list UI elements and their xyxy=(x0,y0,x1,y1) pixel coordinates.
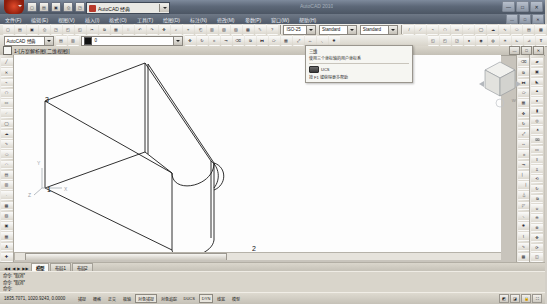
mirror-icon[interactable]: ⧓ xyxy=(257,35,268,46)
plot-preview-icon[interactable]: ◳ xyxy=(51,24,62,35)
gradient-icon[interactable]: ▨ xyxy=(1,211,13,221)
print-icon[interactable]: ⎙ xyxy=(63,2,73,12)
cylinder-icon[interactable]: ▮ xyxy=(531,106,543,115)
menu-item-2[interactable]: 视图(V) xyxy=(53,16,80,23)
workspace-combo[interactable]: AutoCAD 经典 xyxy=(4,36,54,46)
stretch-icon[interactable]: ↔ xyxy=(518,139,530,149)
layer-combo[interactable]: 0 xyxy=(81,36,183,46)
qnew-icon[interactable]: ▢ xyxy=(3,24,14,35)
join-icon[interactable]: ⏃ xyxy=(518,190,530,200)
command-line[interactable]: 命令: *取消* 命令: *取消* 命令: xyxy=(0,271,545,292)
menu-item-9[interactable]: 参数(P) xyxy=(240,16,267,23)
subtract-icon[interactable]: ⊖ xyxy=(531,213,543,222)
revolve-icon[interactable]: ↻ xyxy=(531,184,543,193)
viewcube[interactable] xyxy=(477,58,523,110)
line-icon[interactable]: / xyxy=(403,24,414,35)
section-plane-icon[interactable]: ◫ xyxy=(531,252,543,261)
menu-item-5[interactable]: 工具(T) xyxy=(132,16,158,23)
make-block-icon[interactable]: ▥ xyxy=(1,180,13,190)
chevron-down-icon[interactable] xyxy=(388,26,397,34)
cut-icon[interactable]: ✂ xyxy=(87,24,98,35)
doc-minimize-button[interactable]: — xyxy=(506,14,518,24)
undo-icon[interactable]: ↶ xyxy=(135,24,146,35)
sheetset-icon[interactable]: ▩ xyxy=(243,24,254,35)
textstyle-combo[interactable]: Standard xyxy=(319,25,357,35)
box-icon[interactable]: ▣ xyxy=(531,67,543,76)
planar-surface-icon[interactable]: ▭ xyxy=(531,145,543,154)
wedge-icon[interactable]: ◣ xyxy=(531,77,543,86)
ellipse-arc-icon[interactable]: ◠ xyxy=(1,160,13,170)
block-icon[interactable]: ▤ xyxy=(523,24,534,35)
rectangle-icon[interactable]: ▭ xyxy=(451,24,462,35)
spline-icon[interactable]: ∿ xyxy=(1,139,13,149)
move-icon[interactable]: ✥ xyxy=(185,35,196,46)
toolpalette-icon[interactable]: ▨ xyxy=(231,24,242,35)
save-icon[interactable]: ▣ xyxy=(27,24,38,35)
doc-close-button[interactable]: ✕ xyxy=(532,14,544,24)
status-toggle-1[interactable]: 栅格 xyxy=(90,294,104,303)
edit-spline-icon[interactable]: ∿ xyxy=(518,242,530,252)
pan-icon[interactable]: ✥ xyxy=(159,24,170,35)
plot-icon[interactable]: ⎙ xyxy=(39,24,50,35)
spline-icon[interactable]: ∿ xyxy=(499,24,510,35)
ellipse-icon[interactable]: ⬭ xyxy=(1,149,13,159)
revcloud-icon[interactable]: ☁ xyxy=(487,24,498,35)
status-toggle-0[interactable]: 捕捉 xyxy=(75,294,89,303)
ucs-world-icon[interactable]: ⊿ xyxy=(524,35,535,46)
break-icon[interactable]: ⎹ xyxy=(518,180,530,190)
revision-cloud-icon[interactable]: ☁ xyxy=(1,129,13,139)
rotate-icon[interactable]: ↻ xyxy=(518,119,530,129)
extend-icon[interactable]: ⇥ xyxy=(518,160,530,170)
status-toggle-8[interactable]: 线宽 xyxy=(214,294,228,303)
plot-preview-icon[interactable]: ◳ xyxy=(75,2,85,12)
application-menu-button[interactable] xyxy=(4,0,24,14)
clean-screen-icon[interactable]: ⛶ xyxy=(532,294,542,303)
layer-state-icon[interactable]: ▥ xyxy=(68,35,79,46)
zoom-window-icon[interactable]: ⌖ xyxy=(183,24,194,35)
helix-icon[interactable]: ➿ xyxy=(531,135,543,144)
break-at-point-icon[interactable]: ⎸ xyxy=(518,170,530,180)
region-icon[interactable]: ▣ xyxy=(1,221,13,231)
polyline-icon[interactable]: ⌁ xyxy=(427,24,438,35)
redo-icon[interactable]: ↷ xyxy=(147,24,158,35)
save-icon[interactable]: ▣ xyxy=(51,2,61,12)
layer-properties-icon[interactable]: ▤ xyxy=(56,35,67,46)
erase-icon[interactable]: ⌫ xyxy=(233,35,244,46)
offset-icon[interactable]: ⧂ xyxy=(269,35,280,46)
3d-move-icon[interactable]: ✥ xyxy=(531,233,543,242)
chevron-down-icon[interactable] xyxy=(159,4,169,12)
point-icon[interactable]: · xyxy=(1,190,13,200)
matchprop-icon[interactable]: ⌷ xyxy=(123,24,134,35)
menu-item-8[interactable]: 修改(M) xyxy=(212,16,240,23)
copy-icon[interactable]: ⧉ xyxy=(99,24,110,35)
construction-line-icon[interactable]: ✕ xyxy=(1,67,13,77)
insert-block-icon[interactable]: ▤ xyxy=(1,170,13,180)
chevron-down-icon[interactable] xyxy=(306,26,315,34)
visual-style-3dwire-icon[interactable]: ◰ xyxy=(440,35,451,46)
status-toggle-2[interactable]: 正交 xyxy=(105,294,119,303)
drawing-restore-button[interactable]: □ xyxy=(521,46,532,55)
drawing-minimize-button[interactable]: — xyxy=(509,46,520,55)
zoom-realtime-icon[interactable]: ⌕ xyxy=(171,24,182,35)
ellipse-icon[interactable]: ⬭ xyxy=(511,24,522,35)
doc-restore-button[interactable]: □ xyxy=(519,14,531,24)
menu-item-4[interactable]: 格式(O) xyxy=(104,16,131,23)
status-toggle-6[interactable]: DUCS xyxy=(181,294,198,303)
visual-style-2dwire-icon[interactable]: ◱ xyxy=(428,35,439,46)
sweep-icon[interactable]: ⟲ xyxy=(531,174,543,183)
line-icon[interactable]: ╱ xyxy=(1,57,13,67)
chevron-down-icon[interactable] xyxy=(173,37,182,45)
canvas-hscrollbar[interactable] xyxy=(14,252,501,260)
maximize-button[interactable]: □ xyxy=(516,1,529,12)
drawing-canvas[interactable]: X Y Z 312 xyxy=(14,55,501,260)
circle-icon[interactable]: ◯ xyxy=(475,24,486,35)
status-toggle-9[interactable]: 模型 xyxy=(229,294,243,303)
canvas-hscroll-thumb[interactable] xyxy=(25,253,227,260)
lock-ui-icon[interactable]: 🔒 xyxy=(521,294,531,303)
edit-polyline-icon[interactable]: ⌇ xyxy=(518,231,530,241)
rectangle-icon[interactable]: ▭ xyxy=(1,98,13,108)
properties-icon[interactable]: ▥ xyxy=(207,24,218,35)
dimstyle-combo[interactable]: ISO-25 xyxy=(283,25,315,35)
material-icon[interactable]: ◍ xyxy=(488,35,499,46)
hatch-icon[interactable]: ▩ xyxy=(1,201,13,211)
